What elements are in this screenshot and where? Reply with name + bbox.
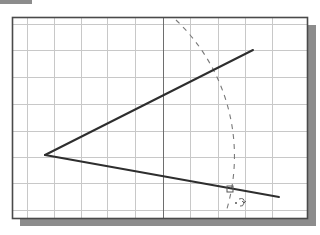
drawing-area (12, 17, 307, 218)
drawing-canvas[interactable] (0, 0, 320, 235)
frame-shadow-right (308, 25, 316, 226)
